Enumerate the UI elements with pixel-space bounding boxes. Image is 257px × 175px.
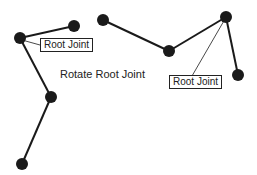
bone	[226, 17, 238, 75]
root-joint-right	[220, 11, 232, 23]
joint	[68, 20, 80, 32]
root-joint-left	[14, 32, 26, 44]
bone	[22, 97, 51, 164]
joint	[45, 91, 57, 103]
root-joint-label-left: Root Joint	[40, 38, 93, 52]
caption-rotate-root-joint: Rotate Root Joint	[60, 68, 145, 80]
bone	[169, 17, 226, 51]
joint	[232, 69, 244, 81]
bone	[20, 26, 74, 38]
root-joint-label-right: Root Joint	[169, 75, 222, 89]
bone	[103, 20, 169, 51]
joint	[16, 158, 28, 170]
joint	[163, 45, 175, 57]
joint	[97, 14, 109, 26]
